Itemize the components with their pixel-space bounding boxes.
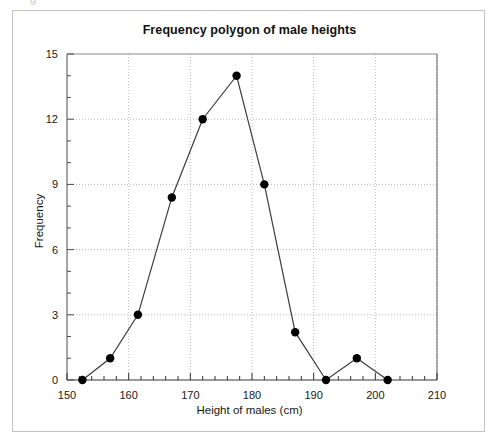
grid-lines	[67, 54, 437, 380]
svg-text:200: 200	[366, 389, 384, 401]
figure-root: g Frequency polygon of male heights 1501…	[0, 0, 499, 444]
tick-labels: 15016017018019020021003691215	[46, 48, 446, 401]
y-axis-title: Frequency	[33, 161, 45, 281]
data-line	[82, 76, 387, 380]
svg-text:3: 3	[52, 309, 58, 321]
svg-text:190: 190	[304, 389, 322, 401]
data-markers	[78, 72, 392, 385]
svg-text:160: 160	[119, 389, 137, 401]
svg-text:210: 210	[428, 389, 446, 401]
svg-text:12: 12	[46, 113, 58, 125]
svg-text:0: 0	[52, 374, 58, 386]
svg-text:180: 180	[243, 389, 261, 401]
svg-text:15: 15	[46, 48, 58, 60]
svg-text:9: 9	[52, 178, 58, 190]
svg-text:6: 6	[52, 244, 58, 256]
svg-text:170: 170	[181, 389, 199, 401]
svg-text:150: 150	[58, 389, 76, 401]
x-axis-title: Height of males (cm)	[0, 404, 499, 416]
frequency-polygon-plot: 15016017018019020021003691215	[0, 0, 499, 444]
